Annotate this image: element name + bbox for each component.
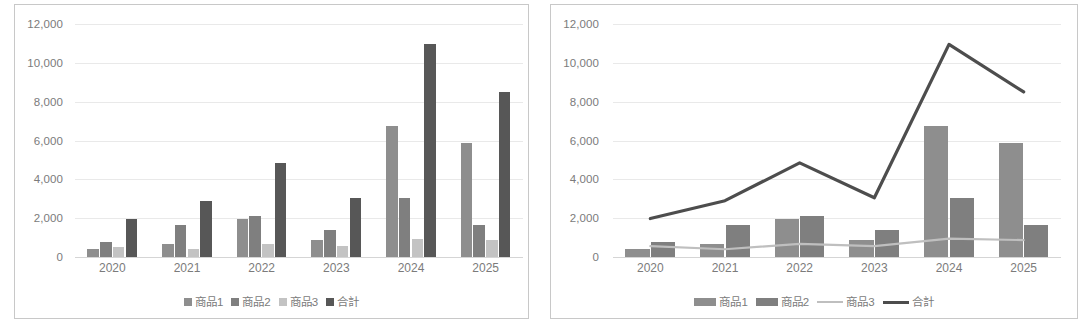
bar-商品1-2024[interactable] <box>386 126 397 257</box>
y-axis-tick-label: 8,000 <box>570 96 599 108</box>
bar-chart-plot-wrap: 02,0004,0006,0008,00010,00012,000 202020… <box>15 5 528 318</box>
legend-item-商品2[interactable]: 商品2 <box>756 297 809 309</box>
legend-left[interactable]: 商品1商品2商品3合計 <box>15 297 528 309</box>
y-axis-tick-label: 4,000 <box>570 173 599 185</box>
legend-item-商品3[interactable]: 商品3 <box>817 297 874 309</box>
legend-box-swatch <box>184 298 192 306</box>
legend-box-swatch <box>326 298 334 306</box>
y-axis-tick-label: 0 <box>593 251 600 263</box>
gridline <box>75 179 523 180</box>
bar-商品2-2021[interactable] <box>175 225 186 257</box>
combo-chart-plot-wrap: 02,0004,0006,0008,00010,00012,000 202020… <box>551 5 1077 318</box>
bar-商品3-2022[interactable] <box>262 244 273 257</box>
y-axis-tick-label: 12,000 <box>27 18 63 30</box>
legend-item-合計[interactable]: 合計 <box>326 297 359 309</box>
legend-label: 商品1 <box>195 297 223 309</box>
bar-商品1-2020[interactable] <box>87 249 98 257</box>
plot-area-right <box>613 24 1061 257</box>
legend-label: 商品1 <box>719 297 747 309</box>
gridline <box>75 218 523 219</box>
bar-商品1-2025[interactable] <box>461 143 472 257</box>
legend-right[interactable]: 商品1商品2商品3合計 <box>551 297 1077 309</box>
legend-box-swatch <box>231 298 239 306</box>
bar-商品2-2020[interactable] <box>100 242 111 257</box>
y-axis-labels-left: 02,0004,0006,0008,00010,00012,000 <box>15 5 69 318</box>
legend-label: 商品2 <box>781 297 809 309</box>
bar-商品2-2023[interactable] <box>324 230 335 257</box>
y-axis-tick-label: 12,000 <box>563 18 599 30</box>
bar-商品3-2023[interactable] <box>337 246 348 257</box>
bar-合計-2024[interactable] <box>424 44 435 257</box>
x-axis-tick-label: 2021 <box>174 261 201 275</box>
y-axis-tick-label: 6,000 <box>34 135 63 147</box>
x-axis-tick-label: 2023 <box>323 261 350 275</box>
axis-baseline <box>75 257 523 258</box>
legend-label: 商品3 <box>846 297 874 309</box>
bar-商品3-2021[interactable] <box>188 249 199 257</box>
gridline <box>75 24 523 25</box>
bar-合計-2022[interactable] <box>275 163 286 257</box>
axis-baseline <box>613 257 1061 258</box>
bar-商品2-2024[interactable] <box>399 198 410 257</box>
y-axis-labels-right: 02,0004,0006,0008,00010,00012,000 <box>551 5 605 318</box>
legend-label: 商品2 <box>242 297 270 309</box>
y-axis-tick-label: 0 <box>57 251 64 263</box>
legend-label: 商品3 <box>290 297 318 309</box>
legend-item-商品2[interactable]: 商品2 <box>231 297 270 309</box>
x-axis-tick-label: 2022 <box>248 261 275 275</box>
bar-商品1-2022[interactable] <box>237 219 248 257</box>
x-axis-tick-label: 2022 <box>786 261 813 275</box>
bar-商品3-2025[interactable] <box>486 240 497 257</box>
line-series-overlay <box>613 24 1061 257</box>
bar-chart-panel[interactable]: 02,0004,0006,0008,00010,00012,000 202020… <box>14 4 529 319</box>
x-axis-tick-label: 2025 <box>472 261 499 275</box>
y-axis-tick-label: 4,000 <box>34 173 63 185</box>
line-商品3[interactable] <box>650 239 1023 250</box>
x-axis-tick-label: 2024 <box>936 261 963 275</box>
legend-item-商品1[interactable]: 商品1 <box>694 297 747 309</box>
bar-商品1-2021[interactable] <box>162 244 173 257</box>
bar-商品2-2025[interactable] <box>473 225 484 257</box>
bar-合計-2021[interactable] <box>200 201 211 257</box>
y-axis-tick-label: 10,000 <box>563 57 599 69</box>
bar-合計-2023[interactable] <box>350 198 361 257</box>
gridline <box>75 63 523 64</box>
gridline <box>75 102 523 103</box>
legend-box-swatch <box>694 298 716 306</box>
bar-商品1-2023[interactable] <box>311 240 322 257</box>
line-合計[interactable] <box>650 44 1023 218</box>
y-axis-tick-label: 10,000 <box>27 57 63 69</box>
legend-item-商品1[interactable]: 商品1 <box>184 297 223 309</box>
x-axis-tick-label: 2023 <box>861 261 888 275</box>
legend-item-合計[interactable]: 合計 <box>883 297 934 309</box>
legend-box-swatch <box>279 298 287 306</box>
bar-合計-2025[interactable] <box>499 92 510 257</box>
legend-line-swatch <box>883 301 909 304</box>
legend-label: 合計 <box>337 297 359 309</box>
legend-box-swatch <box>756 298 778 306</box>
legend-item-商品3[interactable]: 商品3 <box>279 297 318 309</box>
bar-商品3-2020[interactable] <box>113 247 124 257</box>
x-axis-tick-label: 2025 <box>1010 261 1037 275</box>
y-axis-tick-label: 2,000 <box>34 212 63 224</box>
combo-chart-panel[interactable]: 02,0004,0006,0008,00010,00012,000 202020… <box>550 4 1078 319</box>
bar-合計-2020[interactable] <box>126 219 137 257</box>
plot-area-left <box>75 24 523 257</box>
legend-label: 合計 <box>912 297 934 309</box>
bar-商品3-2024[interactable] <box>412 239 423 257</box>
x-axis-tick-label: 2021 <box>712 261 739 275</box>
y-axis-tick-label: 8,000 <box>34 96 63 108</box>
x-axis-tick-label: 2024 <box>398 261 425 275</box>
legend-line-swatch <box>817 301 843 303</box>
y-axis-tick-label: 6,000 <box>570 135 599 147</box>
x-axis-tick-label: 2020 <box>99 261 126 275</box>
y-axis-tick-label: 2,000 <box>570 212 599 224</box>
bar-商品2-2022[interactable] <box>249 216 260 257</box>
gridline <box>75 141 523 142</box>
x-axis-tick-label: 2020 <box>637 261 664 275</box>
